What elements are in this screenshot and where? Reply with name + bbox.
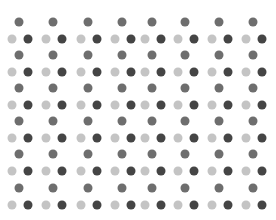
- dot-light: [77, 68, 86, 77]
- dot-dark: [58, 167, 67, 176]
- dot-light: [174, 201, 183, 210]
- dot-light: [8, 35, 17, 44]
- dot-dark: [93, 68, 102, 77]
- dot-light: [174, 134, 183, 143]
- dot-dark: [24, 201, 33, 210]
- dot-light: [141, 134, 150, 143]
- dot-dark: [157, 134, 166, 143]
- dot-medium: [215, 51, 224, 60]
- dot-medium: [181, 150, 190, 159]
- dot-medium: [249, 117, 258, 126]
- dot-pattern-canvas: [0, 0, 276, 220]
- dot-light: [8, 201, 17, 210]
- dot-medium: [118, 150, 127, 159]
- dot-medium: [49, 51, 58, 60]
- dot-dark: [127, 167, 136, 176]
- dot-light: [77, 35, 86, 44]
- dot-medium: [118, 84, 127, 93]
- dot-dark: [258, 201, 267, 210]
- dot-medium: [15, 84, 24, 93]
- dot-medium: [84, 18, 93, 27]
- dot-dark: [224, 201, 233, 210]
- dot-light: [141, 167, 150, 176]
- dot-medium: [15, 117, 24, 126]
- dot-medium: [181, 184, 190, 193]
- dot-dark: [224, 134, 233, 143]
- dot-medium: [118, 117, 127, 126]
- dot-dark: [24, 35, 33, 44]
- dot-dark: [258, 101, 267, 110]
- dot-light: [174, 101, 183, 110]
- dot-dark: [190, 101, 199, 110]
- dot-light: [208, 167, 217, 176]
- dot-medium: [148, 51, 157, 60]
- dot-medium: [148, 117, 157, 126]
- dot-dark: [58, 101, 67, 110]
- dot-light: [77, 201, 86, 210]
- dot-dark: [224, 68, 233, 77]
- dot-medium: [49, 18, 58, 27]
- dot-light: [8, 167, 17, 176]
- dot-dark: [224, 101, 233, 110]
- dot-light: [208, 201, 217, 210]
- dot-medium: [49, 184, 58, 193]
- dot-medium: [215, 150, 224, 159]
- dot-light: [42, 101, 51, 110]
- dot-medium: [181, 51, 190, 60]
- dot-medium: [49, 150, 58, 159]
- dot-light: [242, 167, 251, 176]
- dot-medium: [249, 51, 258, 60]
- dot-light: [208, 101, 217, 110]
- dot-medium: [215, 18, 224, 27]
- dot-dark: [127, 68, 136, 77]
- dot-medium: [215, 184, 224, 193]
- dot-light: [42, 35, 51, 44]
- dot-dark: [93, 134, 102, 143]
- dot-dark: [157, 68, 166, 77]
- dot-dark: [258, 134, 267, 143]
- dot-medium: [84, 51, 93, 60]
- dot-light: [208, 35, 217, 44]
- dot-dark: [190, 68, 199, 77]
- dot-dark: [190, 201, 199, 210]
- dot-dark: [24, 134, 33, 143]
- dot-medium: [84, 184, 93, 193]
- dot-medium: [15, 18, 24, 27]
- dot-dark: [58, 201, 67, 210]
- dot-medium: [148, 84, 157, 93]
- dot-light: [242, 35, 251, 44]
- dot-light: [8, 134, 17, 143]
- dot-medium: [215, 84, 224, 93]
- dot-light: [111, 68, 120, 77]
- dot-dark: [224, 35, 233, 44]
- dot-dark: [127, 201, 136, 210]
- dot-light: [242, 201, 251, 210]
- dot-medium: [215, 117, 224, 126]
- dot-medium: [84, 117, 93, 126]
- dot-medium: [118, 184, 127, 193]
- dot-light: [141, 68, 150, 77]
- dot-dark: [190, 167, 199, 176]
- dot-dark: [24, 68, 33, 77]
- dot-medium: [148, 150, 157, 159]
- dot-medium: [15, 150, 24, 159]
- dot-dark: [58, 134, 67, 143]
- dot-light: [8, 101, 17, 110]
- dot-medium: [118, 51, 127, 60]
- dot-medium: [148, 184, 157, 193]
- dot-light: [77, 101, 86, 110]
- dot-medium: [15, 184, 24, 193]
- dot-medium: [49, 84, 58, 93]
- dot-light: [242, 68, 251, 77]
- dot-medium: [249, 150, 258, 159]
- dot-dark: [93, 201, 102, 210]
- dot-medium: [249, 184, 258, 193]
- dot-light: [208, 134, 217, 143]
- dot-light: [77, 134, 86, 143]
- dot-light: [42, 68, 51, 77]
- dot-medium: [249, 84, 258, 93]
- dot-dark: [24, 101, 33, 110]
- dot-dark: [157, 201, 166, 210]
- dot-light: [174, 68, 183, 77]
- dot-dark: [24, 167, 33, 176]
